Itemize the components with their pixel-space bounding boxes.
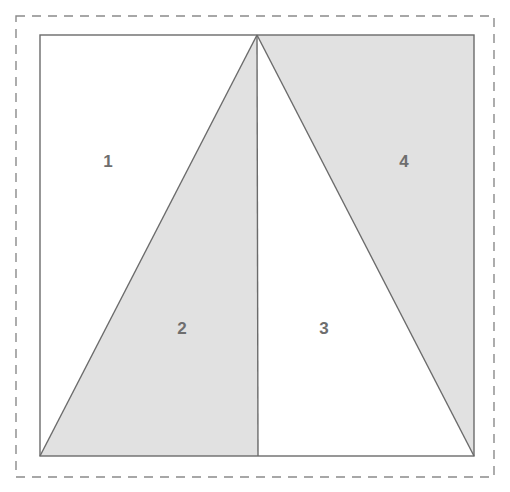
- region-2-label: 2: [177, 319, 186, 338]
- region-3-label: 3: [319, 319, 328, 338]
- region-1-label: 1: [103, 152, 112, 171]
- edge-median: [257, 35, 258, 456]
- shaded-triangle-diagram: 1 2 3 4: [0, 0, 510, 492]
- region-4-label: 4: [399, 152, 409, 171]
- figure-container: 1 2 3 4: [0, 0, 510, 492]
